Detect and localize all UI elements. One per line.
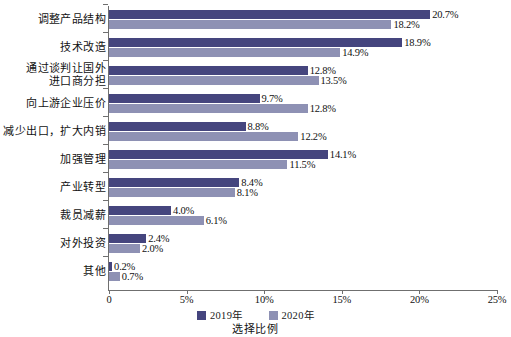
- bar: [109, 216, 204, 225]
- bar-value-label: 4.0%: [173, 205, 194, 216]
- bar: [109, 150, 328, 159]
- bar: [109, 272, 120, 281]
- category-label: 向上游企业压价: [26, 97, 106, 110]
- bar-value-label: 14.9%: [342, 47, 368, 58]
- x-axis-tick-label: 0: [106, 294, 111, 305]
- category-label: 减少出口，扩大内销: [3, 125, 106, 138]
- bar: [109, 10, 430, 19]
- category-label: 通过谈判让国外 进口商分担: [26, 62, 106, 88]
- bar: [109, 178, 239, 187]
- bar-value-label: 18.9%: [404, 37, 430, 48]
- bar-value-label: 12.8%: [310, 103, 336, 114]
- bar: [109, 244, 140, 253]
- category-label: 其他: [83, 265, 106, 278]
- y-axis-tick: [103, 60, 108, 61]
- category-label: 对外投资: [60, 237, 106, 250]
- bar: [109, 122, 246, 131]
- y-axis-tick: [103, 116, 108, 117]
- bar: [109, 38, 402, 47]
- bar-chart: 05%10%15%20%25% 调整产品结构技术改造通过谈判让国外 进口商分担向…: [0, 0, 511, 337]
- bar: [109, 94, 260, 103]
- bar-value-label: 8.1%: [237, 187, 258, 198]
- y-axis-tick: [103, 88, 108, 89]
- x-axis-line: [108, 290, 497, 291]
- bar: [109, 234, 146, 243]
- category-label: 裁员减薪: [60, 209, 106, 222]
- y-axis-tick: [103, 256, 108, 257]
- x-axis-tick-label: 25%: [488, 294, 507, 305]
- bar: [109, 20, 391, 29]
- bar: [109, 76, 319, 85]
- bar: [109, 66, 308, 75]
- x-axis-tick-label: 20%: [410, 294, 429, 305]
- bar-value-label: 14.1%: [330, 149, 356, 160]
- bar-value-label: 13.5%: [321, 75, 347, 86]
- legend-swatch-icon: [269, 311, 278, 320]
- category-label: 技术改造: [60, 41, 106, 54]
- bar-value-label: 11.5%: [289, 159, 315, 170]
- legend-swatch-icon: [197, 311, 206, 320]
- y-axis-tick: [103, 200, 108, 201]
- y-axis-tick: [103, 228, 108, 229]
- category-label: 调整产品结构: [38, 13, 106, 26]
- y-axis-tick: [103, 32, 108, 33]
- bar-value-label: 0.7%: [122, 271, 143, 282]
- bar-value-label: 20.7%: [432, 9, 458, 20]
- bar-value-label: 18.2%: [393, 19, 419, 30]
- x-axis-tick-label: 10%: [255, 294, 274, 305]
- bar: [109, 160, 287, 169]
- bar-value-label: 9.7%: [262, 93, 283, 104]
- y-axis-tick: [103, 4, 108, 5]
- bar: [109, 48, 340, 57]
- x-axis-tick-label: 5%: [180, 294, 194, 305]
- bar: [109, 262, 112, 271]
- y-axis-tick: [103, 172, 108, 173]
- bar-value-label: 6.1%: [206, 215, 227, 226]
- x-axis-tick-label: 15%: [332, 294, 351, 305]
- bar: [109, 206, 171, 215]
- y-axis-tick: [103, 144, 108, 145]
- category-label: 产业转型: [60, 181, 106, 194]
- x-axis-title: 选择比例: [0, 320, 511, 336]
- bar: [109, 188, 235, 197]
- bar: [109, 104, 308, 113]
- bar-value-label: 2.0%: [142, 243, 163, 254]
- category-label: 加强管理: [60, 153, 106, 166]
- bar-value-label: 8.8%: [248, 121, 269, 132]
- bar-value-label: 12.2%: [300, 131, 326, 142]
- bar: [109, 132, 298, 141]
